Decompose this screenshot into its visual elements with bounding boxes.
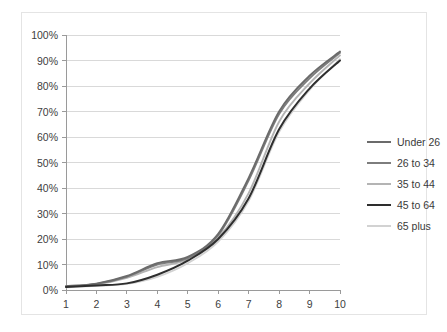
y-axis-tick-label: 30% — [24, 209, 58, 220]
x-axis-tick-label: 1 — [56, 299, 76, 310]
legend-item[interactable]: 65 plus — [367, 215, 447, 236]
x-axis-tick-label: 5 — [178, 299, 198, 310]
legend-line-swatch — [367, 183, 391, 185]
x-axis-tick-label: 3 — [117, 299, 137, 310]
legend-item-label: Under 26 — [397, 136, 440, 148]
legend-item-label: 35 to 44 — [397, 178, 435, 190]
legend-line-swatch — [367, 141, 391, 143]
y-axis-tick-label: 50% — [24, 158, 58, 169]
legend-item-label: 65 plus — [397, 220, 431, 232]
legend-item[interactable]: 45 to 64 — [367, 194, 447, 215]
legend-item-label: 45 to 64 — [397, 199, 435, 211]
y-axis-tick-label: 70% — [24, 107, 58, 118]
y-axis-tick-label: 80% — [24, 81, 58, 92]
legend-item[interactable]: 26 to 34 — [367, 152, 447, 173]
legend-item[interactable]: 35 to 44 — [367, 173, 447, 194]
x-axis-tick-label: 2 — [86, 299, 106, 310]
x-axis-tick-label: 9 — [300, 299, 320, 310]
y-axis-tick-label: 40% — [24, 183, 58, 194]
y-axis-tick-label: 10% — [24, 260, 58, 271]
legend-item-label: 26 to 34 — [397, 157, 435, 169]
x-axis-tick-label: 8 — [269, 299, 289, 310]
y-axis-tick-label: 0% — [24, 285, 58, 296]
chart-frame: 0%10%20%30%40%50%60%70%80%90%100%1234567… — [21, 12, 427, 315]
x-axis-tick-label: 7 — [239, 299, 259, 310]
x-axis-tick-label: 6 — [208, 299, 228, 310]
y-axis-tick-label: 60% — [24, 132, 58, 143]
x-axis-tick-label: 10 — [330, 299, 350, 310]
legend-line-swatch — [367, 162, 391, 164]
legend-line-swatch — [367, 225, 391, 227]
legend-item[interactable]: Under 26 — [367, 131, 447, 152]
legend-line-swatch — [367, 204, 391, 206]
y-axis-tick-label: 90% — [24, 56, 58, 67]
y-axis-tick-label: 20% — [24, 234, 58, 245]
chart-legend: Under 2626 to 3435 to 4445 to 6465 plus — [367, 131, 447, 236]
x-axis-tick-label: 4 — [147, 299, 167, 310]
series-line — [66, 59, 340, 287]
y-axis-tick-label: 100% — [24, 30, 58, 41]
